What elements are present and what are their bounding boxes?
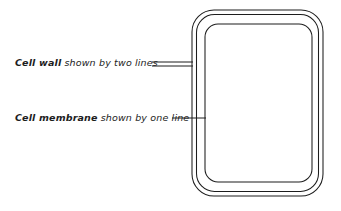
cell-membrane-shape xyxy=(205,24,312,182)
label-cell-membrane: Cell membrane shown by one line xyxy=(15,112,189,124)
cell-wall-shape xyxy=(192,10,323,196)
cell-wall-outer-line xyxy=(192,10,323,196)
label-cell-wall-description: shown by two lines xyxy=(61,57,158,68)
label-cell-membrane-description: shown by one line xyxy=(98,112,190,123)
label-cell-membrane-term: Cell membrane xyxy=(15,112,98,123)
cell-wall-inner-line xyxy=(197,15,319,192)
diagram-canvas: Cell wall shown by two lines Cell membra… xyxy=(0,0,341,211)
cell-wall-leader-line xyxy=(152,62,193,66)
cell-diagram xyxy=(0,0,341,211)
label-cell-wall-term: Cell wall xyxy=(15,57,61,68)
label-cell-wall: Cell wall shown by two lines xyxy=(15,57,158,69)
